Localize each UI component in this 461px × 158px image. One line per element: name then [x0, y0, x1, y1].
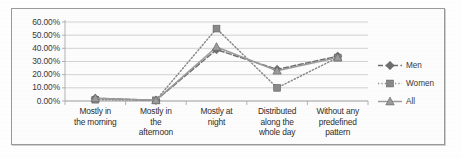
- x-axis-category-label: Distributedalong thewhole day: [247, 106, 308, 138]
- legend-swatch-triangle-icon: [377, 97, 403, 106]
- y-axis-tick-label: 40.00%: [12, 43, 60, 53]
- category-label-line: predefined: [307, 117, 368, 128]
- legend-item-women[interactable]: Women: [377, 79, 434, 88]
- y-axis-tick-label: 30.00%: [12, 56, 60, 66]
- x-axis-category-label: Without anypredefinedpattern: [307, 106, 368, 138]
- y-axis-tick-label: 0.00%: [12, 96, 60, 106]
- x-axis-category-label: Mostly inthe morning: [65, 106, 126, 127]
- category-label-line: Mostly in: [126, 106, 187, 117]
- chart-frame: 0.00%10.00%20.00%30.00%40.00%50.00%60.00…: [11, 8, 445, 145]
- legend-label: Women: [406, 79, 434, 88]
- legend-label: All: [406, 97, 415, 106]
- legend-item-all[interactable]: All: [377, 97, 415, 106]
- x-axis-category-label: Mostly intheafternoon: [126, 106, 187, 138]
- category-label-line: Mostly in: [65, 106, 126, 117]
- legend-item-men[interactable]: Men: [377, 61, 422, 70]
- x-axis-category-label: Mostly atnight: [186, 106, 247, 127]
- series-line: [95, 47, 337, 100]
- y-axis-tick-label: 60.00%: [12, 17, 60, 27]
- category-label-line: Distributed: [247, 106, 308, 117]
- category-label-line: whole day: [247, 127, 308, 138]
- legend-swatch-diamond-icon: [377, 61, 403, 70]
- category-label-line: pattern: [307, 127, 368, 138]
- y-axis-tick-label: 50.00%: [12, 30, 60, 40]
- category-label-line: afternoon: [126, 127, 187, 138]
- category-label-line: the morning: [65, 117, 126, 128]
- legend-label: Men: [406, 61, 422, 70]
- y-axis-tick-label: 20.00%: [12, 69, 60, 79]
- data-point-marker: [213, 25, 220, 32]
- category-label-line: the: [126, 117, 187, 128]
- legend-swatch-square-icon: [377, 79, 403, 88]
- data-point-marker: [274, 84, 281, 91]
- category-label-line: Without any: [307, 106, 368, 117]
- data-point-marker: [212, 43, 220, 51]
- category-label-line: night: [186, 117, 247, 128]
- category-label-line: along the: [247, 117, 308, 128]
- y-axis-tick-label: 10.00%: [12, 82, 60, 92]
- category-label-line: Mostly at: [186, 106, 247, 117]
- data-point-marker: [386, 61, 394, 69]
- data-point-marker: [387, 80, 394, 87]
